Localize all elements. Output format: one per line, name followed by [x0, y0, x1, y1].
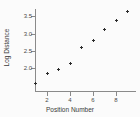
- y-axis-title: Log Distance: [3, 18, 10, 78]
- y-axis-tick-label: 3.5: [24, 13, 32, 19]
- data-point: [46, 72, 49, 75]
- data-point: [103, 28, 106, 31]
- x-axis-tick: [70, 91, 71, 96]
- x-axis-tick-label: 6: [87, 97, 99, 103]
- data-point: [57, 68, 60, 71]
- x-axis-tick: [116, 91, 117, 96]
- x-axis-title: Position Number: [0, 106, 140, 113]
- x-axis-tick: [47, 91, 48, 96]
- y-axis-tick-label: 2.0: [24, 65, 32, 71]
- scatter-plot: 2.02.53.03.5 2468 Log Distance Position …: [0, 0, 140, 117]
- y-axis-tick-label: 2.5: [24, 48, 32, 54]
- x-axis-line: [35, 91, 136, 92]
- data-point: [126, 10, 129, 13]
- data-point: [80, 46, 83, 49]
- y-axis-tick-label: 3.0: [24, 31, 32, 37]
- x-axis-tick-label: 2: [41, 97, 53, 103]
- data-point: [115, 19, 118, 22]
- x-axis-tick-label: 4: [64, 97, 76, 103]
- x-axis-tick: [93, 91, 94, 96]
- data-point: [34, 82, 37, 85]
- x-axis-tick-label: 8: [110, 97, 122, 103]
- data-point: [69, 62, 72, 65]
- data-point: [92, 39, 95, 42]
